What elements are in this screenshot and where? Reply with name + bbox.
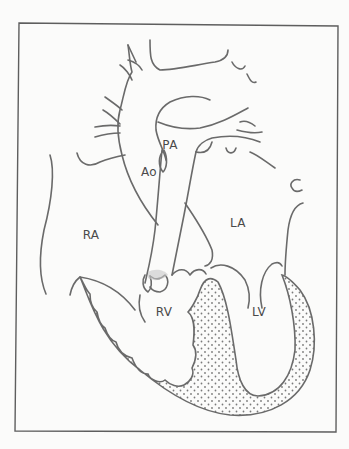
svc-junction bbox=[77, 153, 125, 165]
right-atrium-outline bbox=[40, 155, 52, 294]
left-vessel-4 bbox=[95, 133, 120, 137]
left-vessel-2 bbox=[103, 110, 120, 124]
label-pa: PA bbox=[162, 138, 177, 152]
la-top bbox=[196, 136, 260, 152]
label-lv: LV bbox=[252, 305, 266, 319]
la-right-wall bbox=[285, 203, 303, 275]
mitral-leaflet bbox=[139, 295, 145, 322]
lv-inner-right bbox=[260, 263, 282, 308]
valve-shading bbox=[148, 270, 168, 280]
pa-branch-right-2 bbox=[237, 130, 262, 133]
la-septum bbox=[185, 203, 213, 266]
pa-branch-lower bbox=[158, 108, 248, 129]
arch-vessel-b bbox=[247, 74, 256, 83]
label-ao: Ao bbox=[141, 165, 157, 179]
pulm-vein-3 bbox=[250, 152, 275, 168]
label-rv: RV bbox=[156, 305, 173, 319]
left-vessel-3 bbox=[95, 125, 120, 127]
left-vessel-1 bbox=[105, 97, 122, 110]
pulm-vein-4 bbox=[291, 180, 302, 192]
pulm-vein-2 bbox=[226, 148, 236, 153]
label-ra: RA bbox=[83, 228, 100, 242]
label-la: LA bbox=[230, 216, 246, 230]
heart-drawing bbox=[0, 0, 349, 449]
pa-branch-right bbox=[240, 121, 255, 126]
arch-vessel-a bbox=[232, 62, 245, 69]
myocardium-wall bbox=[80, 275, 314, 415]
aorta-left-wall bbox=[118, 45, 158, 225]
aorta-arch-top bbox=[150, 40, 228, 70]
tricuspid-leaflet-left bbox=[70, 277, 80, 295]
heart-diagram: PA Ao RA LA RV LV bbox=[0, 0, 349, 449]
pulmonic-scallops bbox=[172, 270, 206, 275]
